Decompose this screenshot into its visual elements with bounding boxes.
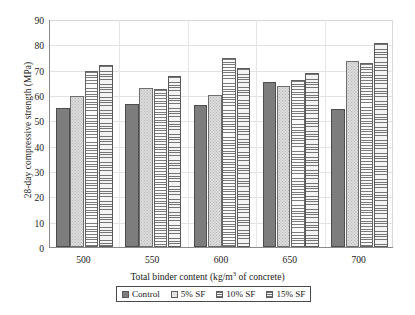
bar [222,58,236,247]
legend-swatch-icon [122,291,129,298]
legend-label: 10% SF [226,289,255,299]
legend-item[interactable]: 15% SF [266,289,305,299]
bar-group [125,76,181,247]
bar [194,105,208,247]
legend-swatch-icon [171,291,178,298]
bar [291,80,305,247]
bar [360,63,374,247]
legend-swatch-icon [266,291,273,298]
group-separator [325,20,326,247]
legend-item[interactable]: 10% SF [216,289,255,299]
x-axis-label: Total binder content (kg/m3 of concrete) [0,270,415,282]
x-axis-tick: 650 [260,254,320,265]
bar [56,108,70,247]
x-axis-tick: 600 [191,254,251,265]
group-separator [188,20,189,247]
bar [85,71,99,247]
y-axis-label: 28-day compressive strength (MPa) [23,30,33,230]
bar [139,88,153,247]
group-separator [119,20,120,247]
bar [70,96,84,247]
bar [374,43,388,247]
bar [263,82,277,247]
bar [305,73,319,247]
plot-right-border [392,20,393,247]
legend-label: 15% SF [276,289,305,299]
bar [125,104,139,247]
legend-item[interactable]: Control [122,289,160,299]
y-axis-tick: 0 [16,243,44,254]
legend-item[interactable]: 5% SF [171,289,206,299]
bar-group [194,58,250,247]
group-separator [256,20,257,247]
legend-label: 5% SF [181,289,206,299]
plot-area [49,20,393,248]
bar-chart: 28-day compressive strength (MPa) 010203… [0,0,415,315]
x-axis-tick: 700 [329,254,389,265]
legend-swatch-icon [216,291,223,298]
bar-group [263,73,319,247]
legend-label: Control [132,289,160,299]
bar [331,109,345,247]
bar [237,68,251,247]
x-axis-tick: 500 [53,254,113,265]
x-axis-label-after: of concrete) [236,271,284,282]
bar [154,89,168,247]
gridline [50,20,393,21]
bar-group [56,65,112,247]
x-axis-label-before: Total binder content (kg/m [130,271,232,282]
chart-legend: Control5% SF10% SF15% SF [116,286,311,302]
bar [277,86,291,247]
bar [346,61,360,247]
x-axis-tick: 550 [122,254,182,265]
bar [168,76,182,247]
y-axis-tick: 90 [16,15,44,26]
bar-group [331,43,387,247]
bar [99,65,113,247]
bar [208,95,222,247]
